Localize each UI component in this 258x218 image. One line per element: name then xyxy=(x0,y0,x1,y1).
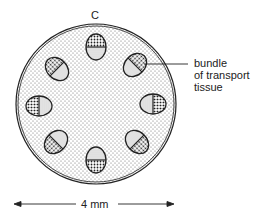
bundle-annotation: bundle of transport tissue xyxy=(194,57,250,93)
annotation-line-3: tissue xyxy=(194,81,250,93)
vascular-bundle-bottom xyxy=(86,147,106,173)
vascular-bundle-top xyxy=(86,34,106,60)
vascular-bundle-left xyxy=(26,96,52,116)
section-label: C xyxy=(91,9,99,21)
stem-cross-section-diagram xyxy=(0,0,258,218)
scale-label: 4 mm xyxy=(81,198,109,210)
annotation-line-1: bundle xyxy=(194,57,250,69)
annotation-line-2: of transport xyxy=(194,69,250,81)
vascular-bundle-right xyxy=(140,94,166,114)
